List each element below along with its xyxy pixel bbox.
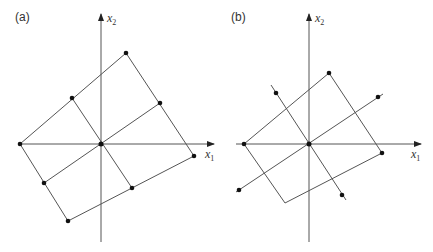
- point: [237, 188, 242, 193]
- point: [340, 193, 345, 198]
- x1-axis-label: x1: [410, 147, 420, 163]
- point: [130, 186, 135, 191]
- point: [242, 142, 247, 147]
- point: [42, 181, 47, 186]
- point: [376, 95, 381, 100]
- origin-point: [99, 142, 104, 147]
- point: [274, 91, 279, 96]
- panel-b: (b) x2 x1: [231, 10, 421, 242]
- panel-a: (a) x2 x1: [15, 10, 214, 242]
- rotated-square: [20, 53, 194, 221]
- point: [124, 51, 129, 56]
- point: [158, 101, 163, 106]
- point: [18, 142, 23, 147]
- origin-point: [307, 142, 312, 147]
- x2-axis-label: x2: [106, 11, 116, 27]
- x2-axis-label: x2: [314, 11, 324, 27]
- point: [66, 219, 71, 224]
- rotated-square: [244, 73, 382, 203]
- panel-a-label: (a): [15, 10, 30, 24]
- panel-b-label: (b): [231, 10, 246, 24]
- point: [327, 71, 332, 76]
- point: [380, 151, 385, 156]
- x1-axis-label: x1: [204, 147, 214, 163]
- point: [192, 154, 197, 159]
- point: [70, 96, 75, 101]
- figure-canvas: (a) x2 x1 (b) x2 x1: [0, 0, 433, 252]
